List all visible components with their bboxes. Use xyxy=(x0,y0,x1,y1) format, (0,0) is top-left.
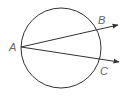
ray-ac xyxy=(21,47,119,62)
label-a: A xyxy=(8,41,16,53)
label-c: C xyxy=(100,65,108,77)
label-b: B xyxy=(98,14,105,26)
geometry-diagram: A B C xyxy=(0,0,130,97)
circle xyxy=(21,8,101,88)
ray-ab xyxy=(21,25,118,47)
